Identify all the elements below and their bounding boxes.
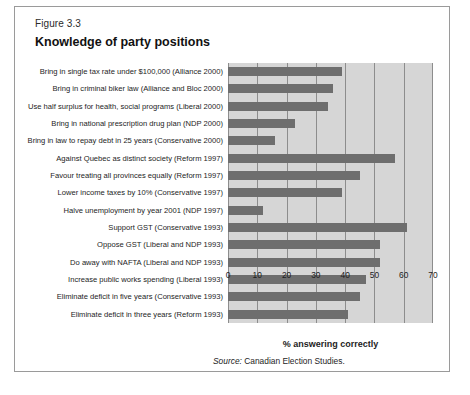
source-value: Canadian Election Studies. — [242, 356, 345, 366]
chart-bar-row: Bring in criminal biker law (Alliance an… — [228, 80, 433, 97]
chart-bar — [228, 67, 342, 76]
chart-bar-row: Oppose GST (Liberal and NDP 1993) — [228, 236, 433, 253]
chart-bar-row: Support GST (Conservative 1993) — [228, 219, 433, 236]
chart-bar-row: Halve unemployment by year 2001 (NDP 199… — [228, 202, 433, 219]
chart-bar-row: Bring in law to repay debt in 25 years (… — [228, 132, 433, 149]
chart-plot-wrapper: Bring in single tax rate under $100,000 … — [15, 7, 451, 373]
category-label: Increase public works spending (Liberal … — [0, 271, 223, 288]
chart-bar — [228, 206, 263, 215]
x-axis-title: % answering correctly — [228, 339, 433, 349]
chart-bar-row: Use half surplus for health, social prog… — [228, 98, 433, 115]
x-tick-label: 20 — [282, 270, 291, 280]
chart-bar-row: Bring in single tax rate under $100,000 … — [228, 63, 433, 80]
category-label: Bring in criminal biker law (Alliance an… — [0, 80, 223, 97]
chart-bar-row: Lower income taxes by 10% (Conservative … — [228, 184, 433, 201]
x-tick-label: 40 — [340, 270, 349, 280]
chart-bar — [228, 292, 360, 301]
x-tick-label: 10 — [253, 270, 262, 280]
chart-bar-row: Favour treating all provinces equally (R… — [228, 167, 433, 184]
category-label: Bring in single tax rate under $100,000 … — [0, 63, 223, 80]
category-label: Bring in law to repay debt in 25 years (… — [0, 132, 223, 149]
category-label: Favour treating all provinces equally (R… — [0, 167, 223, 184]
source-note: Source: Canadian Election Studies. — [213, 356, 345, 366]
category-label: Against Quebec as distinct society (Refo… — [0, 150, 223, 167]
chart-bar-row: Bring in national prescription drug plan… — [228, 115, 433, 132]
chart-bar — [228, 102, 328, 111]
category-label: Eliminate deficit in five years (Conserv… — [0, 288, 223, 305]
chart-bar — [228, 119, 295, 128]
category-label: Do away with NAFTA (Liberal and NDP 1993… — [0, 254, 223, 271]
figure-card: Figure 3.3 Knowledge of party positions … — [14, 6, 450, 372]
chart-bar — [228, 223, 407, 232]
chart-bar — [228, 154, 395, 163]
chart-bar — [228, 188, 342, 197]
x-tick-label: 0 — [226, 270, 231, 280]
chart-bar-row: Against Quebec as distinct society (Refo… — [228, 150, 433, 167]
chart-bar — [228, 171, 360, 180]
x-tick-label: 30 — [311, 270, 320, 280]
category-label: Lower income taxes by 10% (Conservative … — [0, 184, 223, 201]
category-label: Halve unemployment by year 2001 (NDP 199… — [0, 202, 223, 219]
chart-bar-row: Eliminate deficit in three years (Reform… — [228, 306, 433, 323]
chart-bar — [228, 136, 275, 145]
chart-bar-row: Eliminate deficit in five years (Conserv… — [228, 288, 433, 305]
chart-plot-area: Bring in single tax rate under $100,000 … — [228, 63, 433, 323]
chart-bar — [228, 84, 333, 93]
chart-bar — [228, 258, 380, 267]
chart-bar — [228, 240, 380, 249]
source-label: Source: — [213, 356, 242, 366]
category-label: Support GST (Conservative 1993) — [0, 219, 223, 236]
category-label: Oppose GST (Liberal and NDP 1993) — [0, 236, 223, 253]
x-tick-label: 70 — [428, 270, 437, 280]
x-tick-label: 60 — [399, 270, 408, 280]
category-label: Bring in national prescription drug plan… — [0, 115, 223, 132]
chart-bar-row: Do away with NAFTA (Liberal and NDP 1993… — [228, 254, 433, 271]
category-label: Eliminate deficit in three years (Reform… — [0, 306, 223, 323]
chart-bar — [228, 310, 348, 319]
x-tick-label: 50 — [370, 270, 379, 280]
category-label: Use half surplus for health, social prog… — [0, 98, 223, 115]
